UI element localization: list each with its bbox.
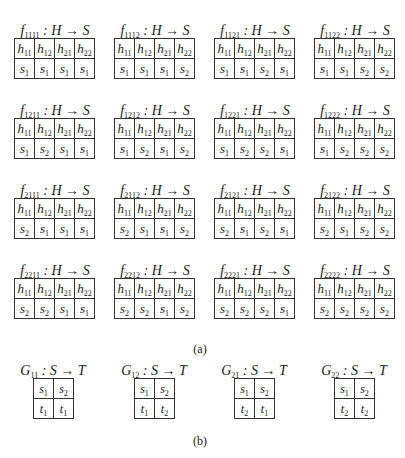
value-cell: t2 xyxy=(235,399,255,419)
value-cell: s2 xyxy=(255,139,275,159)
function-title: f2222 : H → S xyxy=(314,263,396,279)
value-cell: t2 xyxy=(355,399,375,419)
domain-cell: s1 xyxy=(235,379,255,399)
mapping-table: s1s2t2t2 xyxy=(334,378,375,419)
value-cell: t2 xyxy=(155,399,175,419)
value-cell: s2 xyxy=(335,139,355,159)
domain-cell: h22 xyxy=(75,39,95,59)
domain-cell: s1 xyxy=(34,379,54,399)
value-cell: s1 xyxy=(135,59,155,79)
domain-cell: h21 xyxy=(55,39,75,59)
function-title: f2221 : H → S xyxy=(214,263,296,279)
value-cell: s1 xyxy=(315,59,335,79)
function-title: f1121 : H → S xyxy=(214,23,296,39)
value-cell: s2 xyxy=(255,299,275,319)
function-title: G22 : S → T xyxy=(309,363,399,379)
function-title: G12 : S → T xyxy=(109,363,199,379)
value-cell: t1 xyxy=(54,399,74,419)
domain-cell: s1 xyxy=(135,379,155,399)
value-cell: t1 xyxy=(34,399,54,419)
function-title: f2121 : H → S xyxy=(214,183,296,199)
mapping-table: s1s2t1t1 xyxy=(33,378,74,419)
value-cell: s2 xyxy=(235,139,255,159)
domain-cell: h22 xyxy=(75,199,95,219)
value-cell: s1 xyxy=(135,219,155,239)
value-cell: s2 xyxy=(35,139,55,159)
domain-cell: h22 xyxy=(275,199,295,219)
value-cell: s2 xyxy=(175,59,195,79)
value-cell: s2 xyxy=(135,299,155,319)
function-title: f1112 : H → S xyxy=(114,23,196,39)
domain-cell: h12 xyxy=(35,119,55,139)
value-cell: s2 xyxy=(175,219,195,239)
domain-cell: h21 xyxy=(55,279,75,299)
value-cell: s2 xyxy=(355,219,375,239)
domain-cell: h21 xyxy=(155,119,175,139)
value-cell: s1 xyxy=(75,219,95,239)
domain-cell: h11 xyxy=(15,199,35,219)
domain-cell: h21 xyxy=(55,199,75,219)
domain-cell: h12 xyxy=(335,39,355,59)
value-cell: s2 xyxy=(315,299,335,319)
value-cell: s1 xyxy=(215,59,235,79)
domain-cell: h21 xyxy=(355,199,375,219)
domain-cell: h22 xyxy=(75,119,95,139)
value-cell: s2 xyxy=(175,299,195,319)
domain-cell: h11 xyxy=(215,39,235,59)
value-cell: s2 xyxy=(315,219,335,239)
mapping-table: h11h12h21h22s1s2s2s2 xyxy=(314,118,395,159)
domain-cell: h11 xyxy=(215,199,235,219)
mapping-table: h11h12h21h22s2s1s2s1 xyxy=(214,198,295,239)
value-cell: s1 xyxy=(35,59,55,79)
value-cell: s1 xyxy=(235,59,255,79)
value-cell: s2 xyxy=(115,299,135,319)
domain-cell: h22 xyxy=(375,119,395,139)
domain-cell: h11 xyxy=(215,279,235,299)
function-title: f2111 : H → S xyxy=(14,183,96,199)
value-cell: s1 xyxy=(235,219,255,239)
domain-cell: h21 xyxy=(255,279,275,299)
function-title: f2211 : H → S xyxy=(14,263,96,279)
domain-cell: h11 xyxy=(115,39,135,59)
value-cell: s1 xyxy=(275,139,295,159)
domain-cell: h22 xyxy=(375,199,395,219)
domain-cell: h12 xyxy=(135,199,155,219)
value-cell: s1 xyxy=(55,299,75,319)
value-cell: s1 xyxy=(15,59,35,79)
domain-cell: h22 xyxy=(275,279,295,299)
mapping-table: h11h12h21h22s2s2s1s2 xyxy=(114,278,195,319)
domain-cell: h12 xyxy=(35,199,55,219)
domain-cell: h11 xyxy=(315,119,335,139)
mapping-table: h11h12h21h22s1s1s1s1 xyxy=(14,38,95,79)
value-cell: s2 xyxy=(175,139,195,159)
domain-cell: h21 xyxy=(55,119,75,139)
domain-cell: h21 xyxy=(355,39,375,59)
mapping-table: h11h12h21h22s1s1s1s2 xyxy=(114,38,195,79)
domain-cell: h21 xyxy=(155,39,175,59)
domain-cell: h11 xyxy=(115,119,135,139)
function-title: f1211 : H → S xyxy=(14,103,96,119)
function-title: f2212 : H → S xyxy=(114,263,196,279)
value-cell: s1 xyxy=(155,219,175,239)
mapping-table: h11h12h21h22s2s2s2s1 xyxy=(214,278,295,319)
domain-cell: h11 xyxy=(15,119,35,139)
domain-cell: h12 xyxy=(135,119,155,139)
function-title: f2112 : H → S xyxy=(114,183,196,199)
domain-cell: h12 xyxy=(335,279,355,299)
domain-cell: h22 xyxy=(275,119,295,139)
value-cell: s2 xyxy=(355,299,375,319)
domain-cell: h21 xyxy=(255,199,275,219)
caption-b: (b) xyxy=(180,434,220,449)
value-cell: s2 xyxy=(335,299,355,319)
domain-cell: h22 xyxy=(375,279,395,299)
mapping-table: h11h12h21h22s2s2s1s1 xyxy=(14,278,95,319)
value-cell: s2 xyxy=(355,59,375,79)
value-cell: s1 xyxy=(55,139,75,159)
value-cell: s1 xyxy=(335,59,355,79)
function-title: f1221 : H → S xyxy=(214,103,296,119)
value-cell: s2 xyxy=(15,219,35,239)
value-cell: s1 xyxy=(115,139,135,159)
function-title: f2122 : H → S xyxy=(314,183,396,199)
value-cell: s2 xyxy=(35,299,55,319)
value-cell: s1 xyxy=(75,139,95,159)
